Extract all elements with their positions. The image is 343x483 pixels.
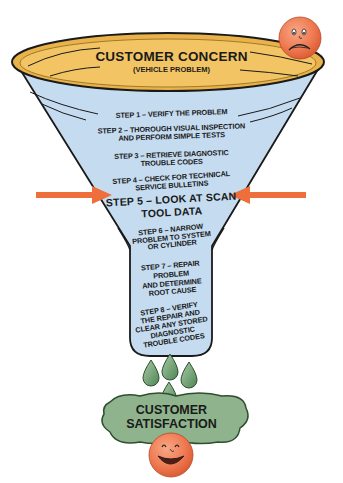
drop-icon — [162, 354, 178, 380]
customer-concern-subtitle: (VEHICLE PROBLEM) — [0, 66, 343, 74]
customer-concern-title: CUSTOMER CONCERN — [0, 50, 343, 64]
customer-satisfaction-label: CUSTOMER SATISFACTION — [0, 403, 343, 432]
drop-icon — [181, 362, 197, 388]
drop-icon — [143, 360, 159, 386]
happy-face-icon — [149, 433, 193, 477]
